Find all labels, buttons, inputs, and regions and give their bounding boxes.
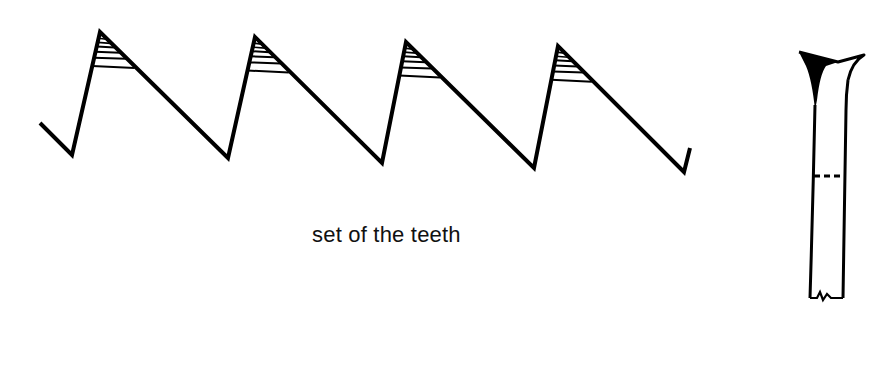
hatch-line xyxy=(405,48,412,49)
hatch-line xyxy=(249,62,280,63)
hatch-line xyxy=(403,56,420,57)
hatch-line xyxy=(401,67,432,68)
hatch-line xyxy=(402,61,425,62)
diagram-caption: set of the teeth xyxy=(312,222,461,248)
hatch-line xyxy=(97,46,115,47)
hatch-line xyxy=(557,52,564,53)
tooth-right-edge xyxy=(843,80,848,298)
hatch-line xyxy=(556,56,568,57)
saw-teeth-profile xyxy=(40,32,690,172)
hatch-line xyxy=(551,80,591,82)
hatch-line xyxy=(553,72,584,73)
tooth-left-edge xyxy=(810,105,815,298)
hatch-line xyxy=(254,43,262,44)
hatch-line xyxy=(92,66,134,68)
hatch-line xyxy=(98,42,111,43)
tooth-set-hatching xyxy=(92,38,592,82)
hatch-line xyxy=(555,60,572,61)
hatch-line xyxy=(399,76,440,78)
saw-teeth-line xyxy=(40,32,690,172)
hatch-line xyxy=(404,52,416,53)
hatch-line xyxy=(253,47,266,48)
hatch-line xyxy=(554,65,577,66)
hatch-line xyxy=(248,71,289,73)
hatch-line xyxy=(251,56,275,57)
tooth-side-view xyxy=(799,52,864,300)
hatch-line xyxy=(99,38,107,39)
saw-teeth-diagram xyxy=(0,0,896,378)
hatch-line xyxy=(96,52,120,53)
hatch-line xyxy=(94,58,126,59)
tooth-break-edge xyxy=(810,292,843,300)
hatch-line xyxy=(252,51,270,52)
